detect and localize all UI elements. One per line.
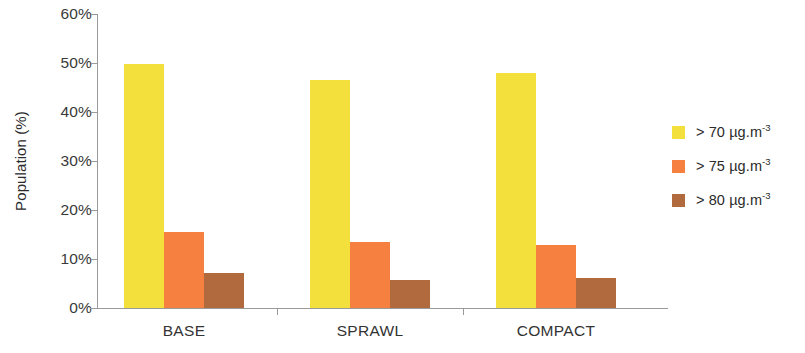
y-axis-ticks: 0%10%20%30%40%50%60%: [30, 0, 92, 353]
y-tick-label: 60%: [34, 5, 92, 23]
legend-label: > 70 µg.m-3: [696, 124, 771, 140]
bar: [390, 280, 430, 308]
legend-label-text: > 75 µg.m: [696, 158, 762, 174]
y-tick-label: 10%: [34, 250, 92, 268]
bar-chart: Population (%) 0%10%20%30%40%50%60% BASE…: [0, 0, 805, 353]
bar: [496, 73, 536, 308]
legend-item: > 75 µg.m-3: [672, 149, 802, 183]
y-tick-mark: [91, 259, 97, 260]
y-tick-mark: [91, 63, 97, 64]
bar: [310, 80, 350, 308]
legend-swatch-icon: [672, 160, 685, 173]
y-axis-title: Population (%): [10, 14, 32, 308]
bar: [164, 232, 204, 308]
y-tick-label: 30%: [34, 152, 92, 170]
legend-label-exponent: -3: [762, 122, 771, 133]
y-tick-mark: [91, 210, 97, 211]
legend-label: > 75 µg.m-3: [696, 158, 771, 174]
y-tick-mark: [91, 161, 97, 162]
y-tick-label: 50%: [34, 54, 92, 72]
y-tick-label: 20%: [34, 201, 92, 219]
y-tick-mark: [91, 112, 97, 113]
y-tick-mark: [91, 14, 97, 15]
legend: > 70 µg.m-3> 75 µg.m-3> 80 µg.m-3: [672, 115, 802, 217]
legend-label-exponent: -3: [762, 190, 771, 201]
x-tick-mark: [463, 308, 464, 315]
legend-item: > 70 µg.m-3: [672, 115, 802, 149]
legend-swatch-icon: [672, 126, 685, 139]
y-tick-mark: [91, 308, 97, 309]
bar: [576, 278, 616, 308]
legend-swatch-icon: [672, 194, 685, 207]
bar: [536, 245, 576, 308]
legend-label-text: > 80 µg.m: [696, 192, 762, 208]
legend-label-exponent: -3: [762, 156, 771, 167]
y-tick-label: 0%: [34, 299, 92, 317]
x-tick-mark: [277, 308, 278, 315]
bar: [350, 242, 390, 308]
x-category-label: BASE: [163, 322, 206, 340]
legend-label-text: > 70 µg.m: [696, 124, 762, 140]
legend-item: > 80 µg.m-3: [672, 183, 802, 217]
x-category-label: SPRAWL: [337, 322, 404, 340]
legend-label: > 80 µg.m-3: [696, 192, 771, 208]
plot-area: [98, 14, 658, 308]
x-category-label: COMPACT: [517, 322, 595, 340]
bar: [124, 64, 164, 308]
bar: [204, 273, 244, 308]
x-axis-line: [90, 308, 668, 309]
y-tick-label: 40%: [34, 103, 92, 121]
